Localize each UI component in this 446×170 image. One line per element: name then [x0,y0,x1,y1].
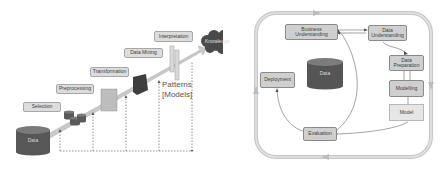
node-deployment: Deployment [260,72,295,88]
node-model: Model [389,104,424,121]
transformed-data-icon [133,74,148,95]
step-data-mining: Data Mining [124,48,163,58]
node-modelling: Modelling [389,80,424,97]
patterns-label: Patterns [Models] [162,80,192,99]
patterns-text: Patterns [162,80,192,90]
data-label: Data [16,137,50,143]
crisp-dm-diagram: Business Understanding Data Understandin… [223,0,446,170]
models-text: [Models] [162,90,192,100]
step-selection: Selection [23,102,61,112]
preprocessed-data-icon [101,89,117,111]
step-preprocessing: Preprocessing [56,84,94,94]
kdd-process-diagram: Data Selection Preprocessing Transformat… [0,0,223,170]
node-evaluation: Evaluation [303,127,337,141]
node-data-preparation: Data Preparation [389,55,424,71]
step-transformation: Transformation [90,67,129,77]
data-label: Data [307,70,343,76]
node-business-understanding: Business Understanding [285,24,338,40]
step-interpretation: Interpretation [154,31,193,42]
patterns-icon [170,46,179,80]
node-data-understanding: Data Understanding [368,25,407,41]
